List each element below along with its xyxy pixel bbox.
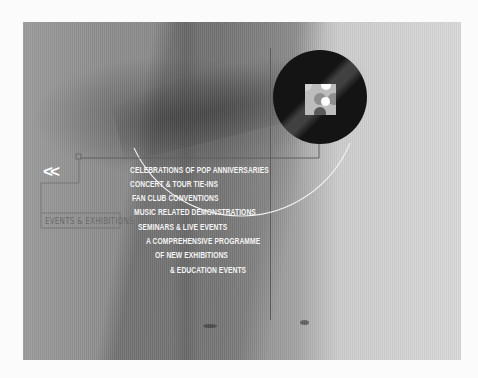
- connector-lines: [0, 0, 478, 378]
- list-item[interactable]: OF NEW EXHIBITIONS: [155, 250, 228, 260]
- list-item[interactable]: A COMPREHENSIVE PROGRAMME: [146, 236, 260, 246]
- list-item[interactable]: SEMINARS & LIVE EVENTS: [138, 222, 227, 232]
- back-button[interactable]: <<: [43, 163, 57, 180]
- list-item[interactable]: & EDUCATION EVENTS: [170, 265, 246, 275]
- label-dot: [321, 97, 330, 106]
- list-item[interactable]: CONCERT & TOUR TIE-INS: [130, 179, 218, 189]
- list-item[interactable]: MUSIC RELATED DEMONSTRATIONS: [134, 207, 256, 217]
- list-item[interactable]: CELEBRATIONS OF POP ANNIVERSARIES: [130, 165, 269, 175]
- label-dot: [305, 84, 312, 91]
- record-label-icon: [305, 84, 336, 115]
- label-dot: [321, 84, 331, 90]
- list-item[interactable]: FAN CLUB CONVENTIONS: [132, 193, 218, 203]
- section-label[interactable]: EVENTS & EXHIBITIONS: [45, 217, 134, 226]
- label-dot: [314, 107, 326, 115]
